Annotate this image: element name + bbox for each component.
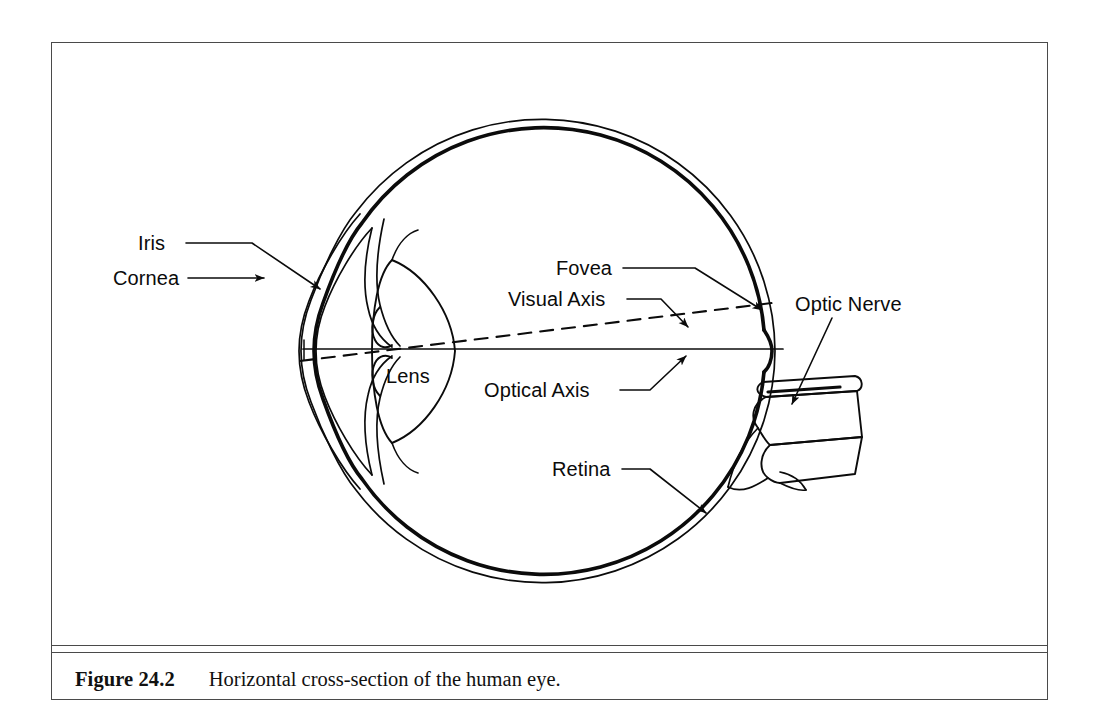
label-iris: Iris bbox=[138, 232, 165, 255]
retina-wall bbox=[314, 128, 764, 575]
label-fovea: Fovea bbox=[556, 257, 612, 280]
label-lens: Lens bbox=[386, 365, 430, 388]
eye-cross-section-diagram bbox=[0, 0, 1106, 710]
label-visual-axis: Visual Axis bbox=[508, 288, 605, 311]
optical-axis-line bbox=[303, 340, 783, 360]
visual-axis-leader-line bbox=[627, 299, 688, 327]
iris-leader-line bbox=[186, 243, 320, 289]
optic-nerve-leader-line bbox=[792, 318, 832, 404]
figure-caption: Figure 24.2Horizontal cross-section of t… bbox=[75, 668, 561, 691]
optic-nerve-structure bbox=[728, 330, 862, 490]
fovea-leader-line bbox=[623, 268, 762, 310]
figure-number: Figure 24.2 bbox=[75, 668, 175, 690]
lens-body bbox=[372, 230, 455, 473]
figure-page: Iris Cornea Lens Fovea Visual Axis Optic… bbox=[0, 0, 1106, 710]
visual-axis-line bbox=[300, 303, 772, 361]
label-retina: Retina bbox=[552, 458, 610, 481]
label-optical-axis: Optical Axis bbox=[484, 379, 590, 402]
label-optic-nerve: Optic Nerve bbox=[795, 293, 902, 316]
optical-axis-leader-line bbox=[620, 356, 686, 390]
figure-caption-text: Horizontal cross-section of the human ey… bbox=[209, 668, 561, 690]
retina-leader-line bbox=[622, 469, 706, 513]
label-cornea: Cornea bbox=[113, 267, 179, 290]
caption-divider bbox=[52, 645, 1047, 653]
cornea-outline bbox=[299, 214, 372, 489]
